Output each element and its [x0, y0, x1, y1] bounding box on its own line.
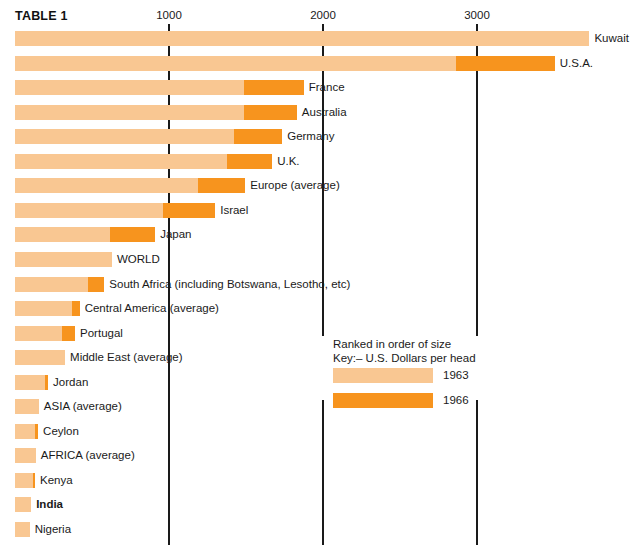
- legend-note-line-2: Key:– U.S. Dollars per head: [333, 352, 476, 364]
- bar-label: Ceylon: [43, 424, 79, 439]
- bar-label: U.K.: [277, 154, 299, 169]
- bar-segment-1963: [15, 277, 88, 292]
- bar-segment-1966: [88, 277, 104, 292]
- bar-label: Nigeria: [35, 522, 71, 537]
- bar-label: Portugal: [80, 326, 123, 341]
- bar-label: Australia: [302, 105, 347, 120]
- legend-swatch-1966: [333, 393, 433, 408]
- bar-segment-1963: [15, 154, 227, 169]
- bar-segment-1966: [110, 227, 155, 242]
- bar-label: South Africa (including Botswana, Lesoth…: [109, 277, 350, 292]
- bar-label: Kuwait: [594, 31, 629, 46]
- bar-segment-1963: [15, 301, 72, 316]
- bar-segment-1966: [234, 129, 283, 144]
- bar-label: Europe (average): [250, 178, 340, 193]
- bar-segment-1966: [33, 473, 35, 488]
- bar-segment-1963: [15, 227, 110, 242]
- bar-segment-1966: [227, 154, 272, 169]
- bar-segment-1966: [456, 56, 555, 71]
- bar-segment-1963: [15, 350, 65, 365]
- bar-segment-1963: [15, 375, 45, 390]
- bar-label: France: [309, 80, 345, 95]
- bar-segment-1963: [15, 252, 112, 267]
- bar-label: WORLD: [117, 252, 160, 267]
- bar-label: ASIA (average): [44, 399, 122, 414]
- legend-note-line-1: Ranked in order of size: [333, 338, 451, 350]
- bar-label: Israel: [220, 203, 248, 218]
- bar-segment-1963: [15, 129, 234, 144]
- bar-label: Germany: [287, 129, 334, 144]
- bar-segment-1966: [163, 203, 215, 218]
- bar-label: Japan: [160, 227, 191, 242]
- bar-segment-1963: [15, 448, 36, 463]
- bar-label: India: [36, 497, 63, 512]
- bar-segment-1963: [15, 473, 33, 488]
- bar-segment-1963: [15, 497, 31, 512]
- bar-segment-1963: [15, 56, 456, 71]
- bar-segment-1966: [244, 80, 303, 95]
- bar-label: Middle East (average): [70, 350, 183, 365]
- bar-label: U.S.A.: [560, 56, 593, 71]
- bar-segment-1966: [198, 178, 245, 193]
- bar-label: AFRICA (average): [41, 448, 135, 463]
- bar-segment-1963: [15, 31, 589, 46]
- bar-segment-1963: [15, 326, 62, 341]
- bar-segment-1963: [15, 80, 244, 95]
- bar-segment-1966: [244, 105, 296, 120]
- table-1-chart: TABLE 1 100020003000 KuwaitU.S.A.FranceA…: [0, 0, 642, 548]
- bar-segment-1966: [35, 424, 38, 439]
- bar-segment-1963: [15, 399, 39, 414]
- bar-segment-1966: [62, 326, 75, 341]
- bar-label: Kenya: [40, 473, 73, 488]
- bar-segment-1966: [72, 301, 80, 316]
- bar-segment-1963: [15, 522, 30, 537]
- bar-label: Central America (average): [85, 301, 219, 316]
- legend-label-1963: 1963: [443, 368, 469, 383]
- bar-segment-1963: [15, 424, 35, 439]
- bar-segment-1963: [15, 203, 163, 218]
- legend-label-1966: 1966: [443, 393, 469, 408]
- bars-layer: KuwaitU.S.A.FranceAustraliaGermanyU.K.Eu…: [0, 0, 642, 548]
- bar-segment-1963: [15, 178, 198, 193]
- bar-segment-1963: [15, 105, 244, 120]
- legend-swatch-1963: [333, 368, 433, 383]
- bar-label: Jordan: [53, 375, 88, 390]
- bar-segment-1966: [45, 375, 48, 390]
